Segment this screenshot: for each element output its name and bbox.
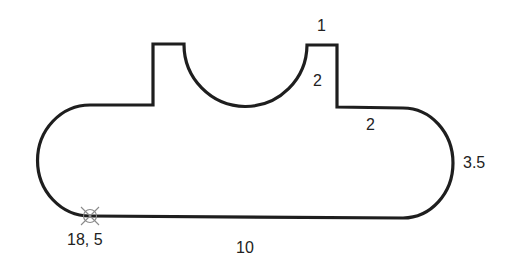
tab-height-label: 2 (313, 73, 322, 89)
shoulder-length-label: 2 (366, 117, 375, 133)
profile-outline (38, 44, 453, 218)
tab-width-label: 1 (317, 18, 326, 34)
start-point-label: 18, 5 (67, 232, 103, 248)
end-radius-label: 3.5 (463, 155, 485, 171)
start-point-marker-icon (81, 207, 99, 225)
bottom-length-label: 10 (236, 240, 254, 256)
